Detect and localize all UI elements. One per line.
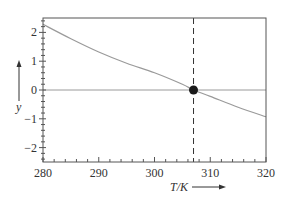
x-axis-label-group: T/K [170,180,226,194]
x-tick-label: 300 [146,166,164,180]
y-axis-label-group: y [15,60,22,114]
x-axis-label: T/K [170,180,189,194]
x-tick-label: 280 [34,166,52,180]
y-axis-label: y [15,100,22,114]
y-tick-label: −2 [24,141,37,155]
x-axis-arrowhead-icon [219,185,226,190]
y-tick-label: 1 [31,54,37,68]
y-tick-label: 2 [31,25,37,39]
intersection-point-marker [189,86,198,95]
series-line [43,24,266,116]
x-tick-label: 320 [257,166,275,180]
x-axis-ticks: 280290300310320 [34,157,275,180]
x-tick-label: 310 [201,166,219,180]
y-tick-label: −1 [24,112,37,126]
chart: 280290300310320 210−1−2 y T/K [0,0,290,202]
y-tick-label: 0 [31,83,37,97]
y-axis-arrowhead-icon [17,60,22,67]
x-tick-label: 290 [90,166,108,180]
plot-area [43,18,266,162]
